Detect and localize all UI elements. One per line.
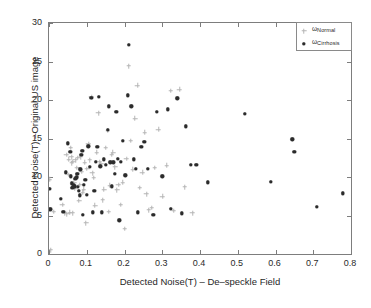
data-point xyxy=(110,185,113,188)
data-point xyxy=(83,160,88,165)
data-point xyxy=(104,163,107,166)
legend-label-normal: ωNormal xyxy=(312,25,335,34)
data-point xyxy=(161,175,164,178)
x-tick-label: 0.7 xyxy=(306,258,319,268)
y-tick-label: 30 xyxy=(20,17,42,27)
data-point xyxy=(77,199,82,204)
data-point xyxy=(96,111,101,116)
data-point xyxy=(100,198,105,203)
data-point xyxy=(111,150,116,155)
data-point xyxy=(69,175,72,178)
data-point xyxy=(70,211,75,216)
data-point xyxy=(291,138,294,141)
data-point xyxy=(144,192,149,197)
data-point xyxy=(130,104,133,107)
x-tick-label: 0.8 xyxy=(344,258,357,268)
data-point xyxy=(100,211,103,214)
data-point xyxy=(166,108,169,111)
data-point xyxy=(160,194,165,199)
data-point xyxy=(51,209,56,214)
scatter-plot-figure: Detected Noise(T) –Original US image Det… xyxy=(0,0,371,308)
data-point xyxy=(118,202,123,207)
y-tick-label: 15 xyxy=(20,133,42,143)
data-point xyxy=(60,202,65,207)
dot-marker-icon xyxy=(302,42,305,45)
data-point xyxy=(189,163,192,166)
data-point xyxy=(177,87,182,92)
data-point xyxy=(142,140,145,143)
legend-entry-cirrhosis: ωCirrhosis xyxy=(297,38,351,51)
data-point xyxy=(206,181,209,184)
data-point xyxy=(84,178,87,181)
x-tick-mark xyxy=(351,250,352,254)
x-tick-label: 0.1 xyxy=(79,258,92,268)
data-point xyxy=(49,248,53,253)
data-point xyxy=(97,95,100,98)
data-point xyxy=(81,187,86,192)
x-tick-label: 0.3 xyxy=(155,258,168,268)
data-point xyxy=(155,110,158,113)
legend-label-cirrhosis: ωCirrhosis xyxy=(312,38,340,47)
data-point xyxy=(124,174,127,177)
data-point xyxy=(96,145,99,148)
data-point xyxy=(128,139,133,144)
y-tick-label: 10 xyxy=(20,171,42,181)
x-axis-title: Detected Noise(T) – De–speckle Field xyxy=(48,276,352,287)
data-point xyxy=(122,226,127,231)
data-point xyxy=(132,158,135,161)
data-point xyxy=(103,145,108,150)
data-point xyxy=(93,203,98,208)
data-point xyxy=(135,83,140,88)
data-point xyxy=(91,175,96,180)
data-point xyxy=(93,189,96,192)
x-tick-label: 0.5 xyxy=(230,258,243,268)
data-point xyxy=(107,104,110,107)
data-point xyxy=(111,161,114,164)
data-point xyxy=(87,144,90,147)
data-point xyxy=(146,167,149,170)
data-point xyxy=(68,150,71,153)
plot-area xyxy=(48,22,352,255)
data-point xyxy=(133,116,138,121)
data-point xyxy=(49,187,51,190)
data-point xyxy=(164,163,169,168)
data-point xyxy=(115,188,120,193)
x-tick-label: 0 xyxy=(45,258,50,268)
data-point xyxy=(142,130,147,135)
data-point xyxy=(49,177,52,182)
data-point xyxy=(113,172,116,175)
data-point xyxy=(78,194,81,197)
data-point xyxy=(121,139,124,142)
data-point xyxy=(113,165,118,170)
data-point xyxy=(190,211,195,216)
data-point xyxy=(94,150,99,155)
x-tick-label: 0.4 xyxy=(193,258,206,268)
data-point xyxy=(195,163,198,166)
data-point xyxy=(81,213,84,216)
legend-entry-normal: ωNormal xyxy=(297,25,351,38)
data-point xyxy=(151,213,154,216)
data-points-layer xyxy=(49,23,351,254)
data-point xyxy=(180,211,183,214)
data-point xyxy=(183,185,188,190)
x-tick-label: 0.2 xyxy=(117,258,130,268)
data-point xyxy=(134,167,137,170)
data-point xyxy=(269,180,272,183)
data-point xyxy=(106,209,111,214)
x-tick-label: 0.6 xyxy=(268,258,281,268)
y-tick-label: 5 xyxy=(20,210,42,220)
data-point xyxy=(82,183,85,186)
data-point xyxy=(168,88,173,93)
data-point xyxy=(184,124,187,127)
y-tick-mark-right xyxy=(347,254,351,255)
data-point xyxy=(119,160,122,163)
data-point xyxy=(124,156,129,161)
plus-marker-icon xyxy=(302,29,307,34)
data-point xyxy=(315,205,318,208)
data-point xyxy=(84,221,89,226)
data-point xyxy=(126,64,131,69)
data-point xyxy=(66,141,69,144)
data-point xyxy=(99,165,102,168)
data-point xyxy=(176,97,179,100)
data-point xyxy=(126,94,129,97)
